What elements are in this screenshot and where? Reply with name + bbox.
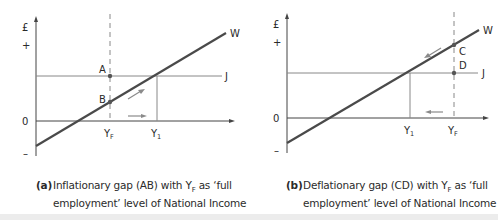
j-label: J — [481, 68, 485, 79]
y-axis-arrow-icon — [34, 16, 38, 22]
point-a-label: A — [99, 64, 106, 75]
caption-tag: (a) — [36, 179, 53, 192]
footer-bar — [0, 214, 498, 220]
y-axis-label: £ — [273, 19, 279, 30]
zero-label: 0 — [22, 116, 28, 127]
y-axis-label: £ — [22, 22, 28, 33]
minus-label: – — [274, 145, 279, 156]
line-w — [36, 33, 226, 146]
y1-label: Y1 — [403, 125, 414, 138]
caption-tag: (b) — [286, 179, 303, 192]
point-d-label: D — [459, 60, 467, 71]
plus-label: + — [273, 37, 281, 48]
left-arrowhead-icon — [425, 110, 431, 114]
yf-label: YF — [447, 125, 458, 138]
y1-label: Y1 — [150, 128, 161, 141]
diagonal-arrow-icon — [428, 48, 441, 56]
right-arrowhead-icon — [141, 114, 147, 118]
caption-text: as ‘full — [451, 179, 487, 191]
x-axis-arrow-icon — [483, 116, 489, 120]
point-b-label: B — [99, 94, 106, 105]
diagram-panel-a: £ + 0 – W J A B YF Y1 — [0, 0, 250, 165]
caption-text: as ‘full — [196, 179, 232, 191]
caption-text: Deflationary gap (CD) with Y — [303, 179, 448, 191]
x-axis-arrow-icon — [229, 119, 235, 123]
point-b — [108, 100, 112, 104]
caption-text: Inflationary gap (AB) with Y — [53, 179, 192, 191]
point-a — [108, 74, 112, 78]
w-label: W — [230, 28, 240, 39]
point-c-label: C — [459, 46, 466, 57]
w-label: W — [483, 25, 493, 36]
y-axis-arrow-icon — [285, 13, 289, 19]
caption-line2: employment’ level of National Income — [36, 197, 246, 210]
diagram-panel-b: £ + 0 – W J C D Y1 YF — [250, 0, 498, 165]
point-d — [452, 71, 456, 75]
yf-label: YF — [103, 128, 114, 141]
zero-label: 0 — [273, 113, 279, 124]
caption-b: (b)Deflationary gap (CD) with YF as ‘ful… — [286, 179, 496, 210]
minus-label: – — [23, 148, 28, 159]
caption-a: (a)Inflationary gap (AB) with YF as ‘ful… — [36, 179, 246, 210]
diagonal-arrow-icon — [128, 91, 141, 99]
j-label: J — [224, 71, 228, 82]
caption-line2: employment’ level of National Income — [286, 197, 496, 210]
plus-label: + — [22, 40, 30, 51]
point-c — [452, 43, 456, 47]
